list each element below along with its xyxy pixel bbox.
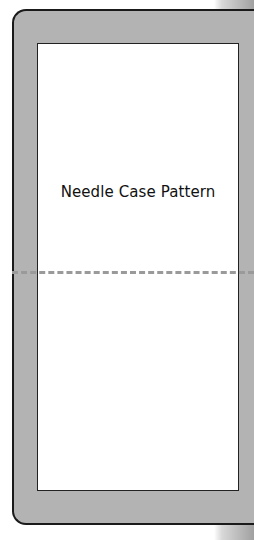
needle-case-inner-panel [37, 43, 239, 491]
binding-strip-bottom [214, 525, 254, 540]
pattern-title: Needle Case Pattern [0, 183, 254, 201]
fold-line [12, 271, 254, 274]
